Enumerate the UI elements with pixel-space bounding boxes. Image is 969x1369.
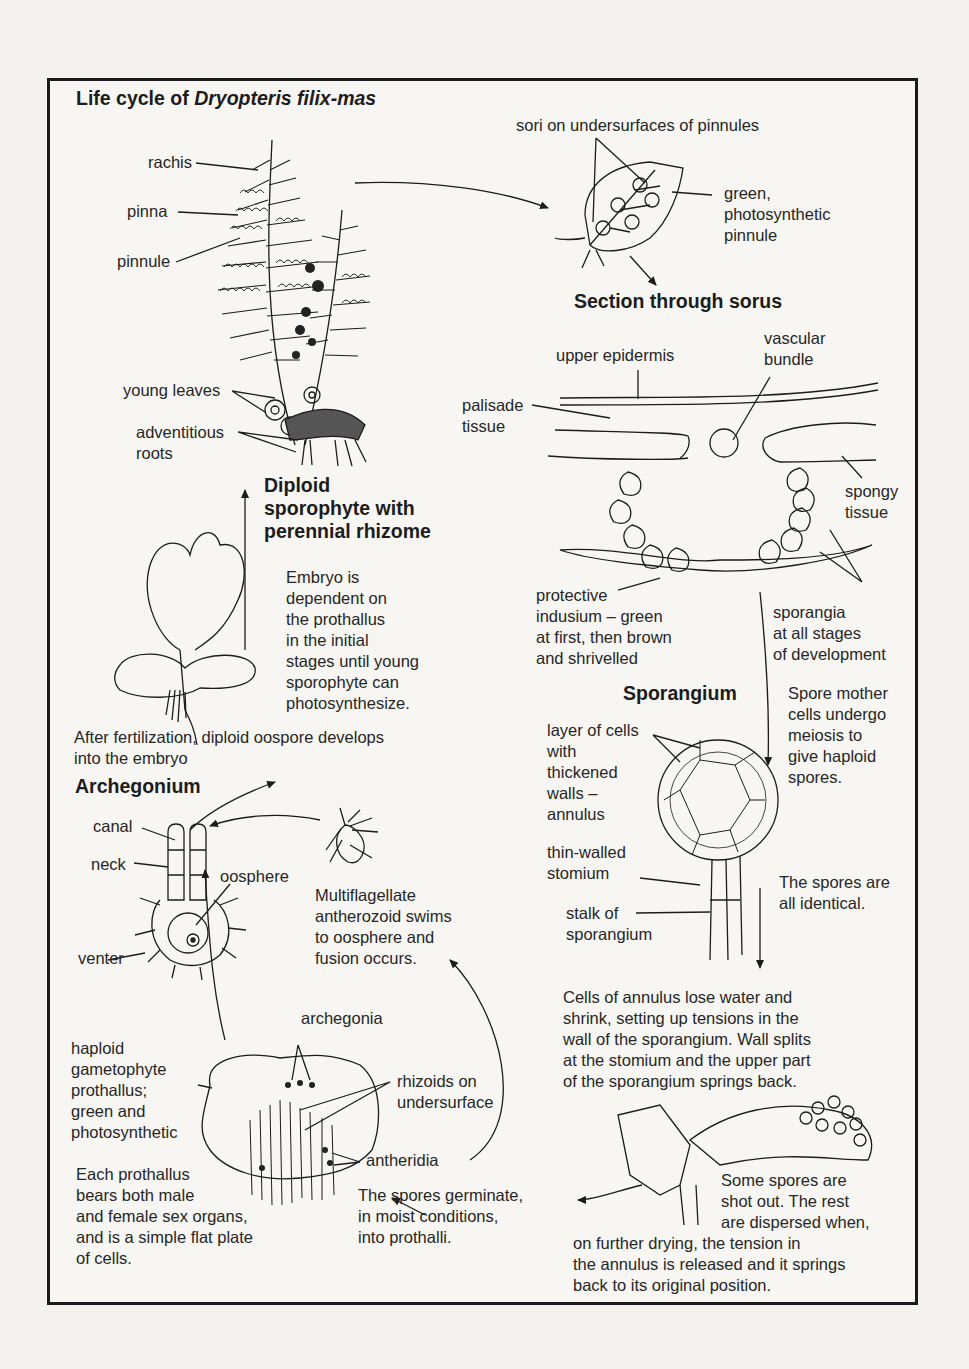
label-sporangia-stages: sporangia at all stages of development bbox=[773, 602, 886, 665]
label-annulus: layer of cells with thickened walls – an… bbox=[547, 720, 639, 825]
identical-spores-note: The spores are all identical. bbox=[779, 872, 890, 914]
label-young-leaves: young leaves bbox=[123, 380, 220, 401]
fertilization-note: After fertilization, diploid oospore dev… bbox=[74, 727, 384, 769]
label-archegonia: archegonia bbox=[301, 1008, 383, 1029]
label-adventitious-roots: adventitious roots bbox=[136, 422, 224, 464]
heading-diploid-sporophyte: Diploid sporophyte with perennial rhizom… bbox=[264, 474, 431, 543]
label-oosphere: oosphere bbox=[220, 866, 289, 887]
dispersal-note-b: on further drying, the tension in the an… bbox=[573, 1233, 845, 1296]
label-palisade-tissue: palisade tissue bbox=[462, 395, 523, 437]
label-green-pinnule: green, photosynthetic pinnule bbox=[724, 183, 830, 246]
label-upper-epidermis: upper epidermis bbox=[556, 345, 674, 366]
meiosis-note: Spore mother cells undergo meiosis to gi… bbox=[788, 683, 888, 788]
label-pinnule: pinnule bbox=[117, 251, 170, 272]
label-sori: sori on undersurfaces of pinnules bbox=[516, 115, 759, 136]
dehiscence-note: Cells of annulus lose water and shrink, … bbox=[563, 987, 811, 1092]
label-haploid-gametophyte: haploid gametophyte prothallus; green an… bbox=[71, 1038, 177, 1143]
label-pinna: pinna bbox=[127, 201, 167, 222]
label-spongy-tissue: spongy tissue bbox=[845, 481, 898, 523]
diagram-title: Life cycle of Dryopteris filix-mas bbox=[76, 87, 376, 110]
heading-section-through-sorus: Section through sorus bbox=[574, 290, 782, 313]
embryo-note: Embryo is dependent on the prothallus in… bbox=[286, 567, 419, 714]
germination-note: The spores germinate, in moist condition… bbox=[358, 1185, 523, 1248]
label-rachis: rachis bbox=[148, 152, 192, 173]
label-protective-indusium: protective indusium – green at first, th… bbox=[536, 585, 672, 669]
label-vascular-bundle: vascular bundle bbox=[764, 328, 825, 370]
label-venter: venter bbox=[78, 948, 124, 969]
heading-sporangium: Sporangium bbox=[623, 682, 737, 705]
label-stalk: stalk of sporangium bbox=[566, 903, 652, 945]
heading-archegonium: Archegonium bbox=[75, 775, 201, 798]
label-stomium: thin-walled stomium bbox=[547, 842, 626, 884]
label-neck: neck bbox=[91, 854, 126, 875]
sex-organs-note: Each prothallus bears both male and fema… bbox=[76, 1164, 253, 1269]
dispersal-note-a: Some spores are shot out. The rest are d… bbox=[721, 1170, 870, 1233]
label-canal: canal bbox=[93, 816, 132, 837]
antherozoid-note: Multiflagellate antherozoid swims to oos… bbox=[315, 885, 452, 969]
label-rhizoids: rhizoids on undersurface bbox=[397, 1071, 493, 1113]
label-antheridia: antheridia bbox=[366, 1150, 438, 1171]
